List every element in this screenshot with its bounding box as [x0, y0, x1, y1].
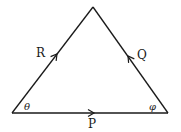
force-triangle-diagram: R Q P θ φ: [0, 0, 181, 132]
side-Q: [93, 7, 168, 113]
label-R: R: [36, 46, 46, 60]
angle-theta: θ: [24, 101, 30, 112]
label-Q: Q: [137, 48, 147, 62]
label-P: P: [88, 117, 96, 131]
side-R: [12, 7, 93, 113]
angle-phi: φ: [149, 101, 156, 112]
